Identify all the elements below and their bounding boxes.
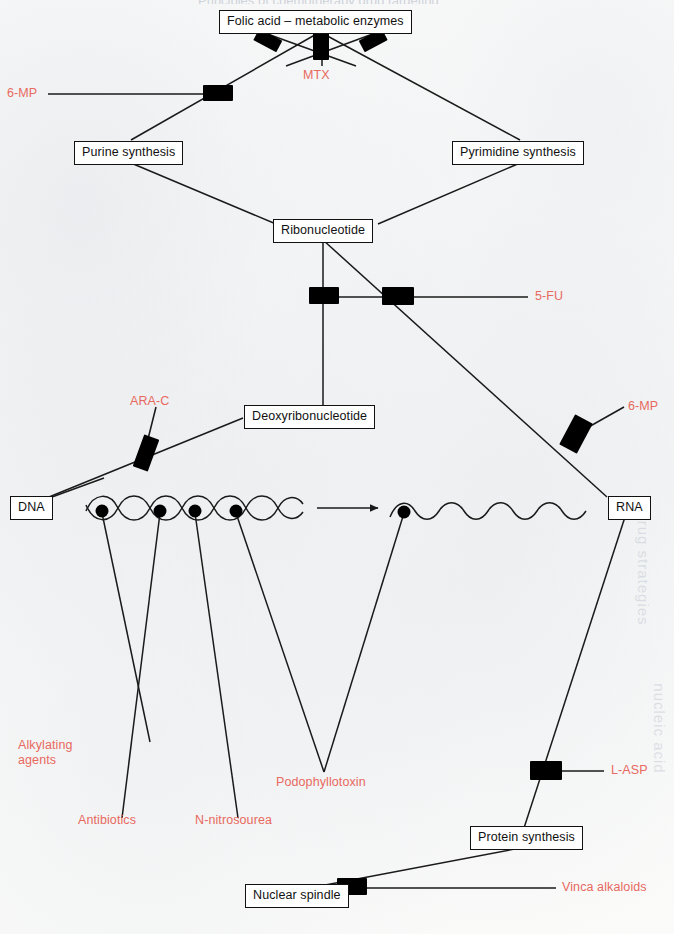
drug-label-antibiotics[interactable]: Antibiotics xyxy=(78,813,136,828)
blocker-6mp-left xyxy=(203,85,233,101)
blocker-lasp xyxy=(530,761,562,780)
node-ribonucleotide[interactable]: Ribonucleotide xyxy=(273,219,373,243)
edge-pyrimidine-to-ribo xyxy=(378,163,520,224)
node-pyrimidine-synthesis[interactable]: Pyrimidine synthesis xyxy=(452,141,584,165)
node-protein-synthesis[interactable]: Protein synthesis xyxy=(470,826,583,850)
edge-alkylating-leader xyxy=(102,513,150,742)
edge-rna-to-protein xyxy=(524,517,625,828)
dna-node-1 xyxy=(96,505,109,518)
drug-label-5fu[interactable]: 5-FU xyxy=(535,289,563,304)
node-dna[interactable]: DNA xyxy=(10,496,53,520)
dna-node-4 xyxy=(230,505,243,518)
edge-dna-label-leader xyxy=(52,478,104,497)
edge-purine-to-ribo xyxy=(131,163,276,224)
edge-antibiotics-leader xyxy=(122,513,160,818)
drug-label-podophyllotoxin[interactable]: Podophyllotoxin xyxy=(276,775,366,790)
blocker-5fu-inner xyxy=(309,287,339,304)
edge-folic-to-pyrimidine xyxy=(320,32,520,140)
edge-nitrosourea-leader xyxy=(195,513,238,818)
drug-label-vinca-alkaloids[interactable]: Vinca alkaloids xyxy=(562,880,647,895)
node-folic-acid[interactable]: Folic acid – metabolic enzymes xyxy=(219,10,412,34)
drug-label-6mp-left[interactable]: 6-MP xyxy=(7,86,37,101)
blocker-6mp-right xyxy=(559,414,593,453)
diagram-page: Principles of chemotherapy drug targetin… xyxy=(0,0,674,934)
drug-label-alkylating-agents[interactable]: Alkylating agents xyxy=(18,738,104,768)
node-rna[interactable]: RNA xyxy=(608,496,651,520)
node-deoxyribonucleotide[interactable]: Deoxyribonucleotide xyxy=(244,405,375,429)
edge-podophyllotoxin-dna-leader xyxy=(236,513,324,772)
drug-label-6mp-right[interactable]: 6-MP xyxy=(628,399,658,414)
drug-label-arac[interactable]: ARA-C xyxy=(130,394,169,409)
edge-deoxy-to-dna xyxy=(22,418,243,508)
rna-node-1 xyxy=(398,506,411,519)
blocker-5fu-outer xyxy=(382,287,414,305)
rna-strand xyxy=(390,503,586,520)
edge-ribo-to-rna xyxy=(323,240,607,497)
drug-label-l-asp[interactable]: L-ASP xyxy=(611,763,648,778)
node-purine-synthesis[interactable]: Purine synthesis xyxy=(74,141,183,165)
dna-node-2 xyxy=(154,505,167,518)
node-nuclear-spindle[interactable]: Nuclear spindle xyxy=(245,884,349,908)
dna-node-3 xyxy=(189,505,202,518)
edge-podophyllotoxin-rna-leader xyxy=(324,513,404,772)
drug-label-mtx[interactable]: MTX xyxy=(303,68,330,83)
drug-label-n-nitrosourea[interactable]: N-nitrosourea xyxy=(195,813,272,828)
